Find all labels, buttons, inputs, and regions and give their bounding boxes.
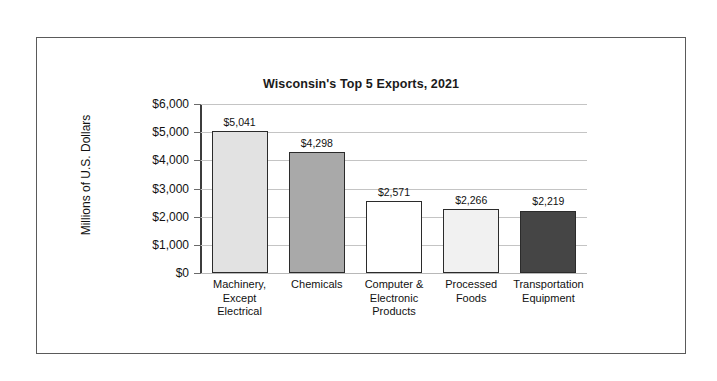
y-axis-tick-label: $1,000 [69,238,189,252]
y-axis-tick [194,217,201,218]
y-axis-tick-label: $5,000 [69,125,189,139]
bar [212,131,268,273]
x-axis-category-label-line: Transportation [502,278,595,292]
y-axis-tick-label: $6,000 [69,97,189,111]
y-axis-tick-label: $4,000 [69,153,189,167]
bar [289,152,345,273]
y-axis-tick [194,245,201,246]
y-axis-tick [194,160,201,161]
bar-value-label: $2,571 [378,186,410,198]
y-axis-tick [194,189,201,190]
y-axis-tick-label: $3,000 [69,182,189,196]
bar [520,211,576,274]
chart-frame: Wisconsin's Top 5 Exports, 2021 Millions… [36,37,686,354]
gridline [201,273,587,274]
y-axis-tick-label: $0 [69,266,189,280]
x-axis-category-label-line: Except [193,292,286,306]
chart-title: Wisconsin's Top 5 Exports, 2021 [37,77,685,91]
y-axis-tick-label: $2,000 [69,210,189,224]
bar [443,209,499,273]
x-axis-category-label: TransportationEquipment [502,278,595,305]
x-axis-category-label-line: Electrical [193,305,286,319]
bar-value-label: $5,041 [224,116,256,128]
x-axis-category-label-line: Products [347,305,440,319]
bar-value-label: $4,298 [301,137,333,149]
y-axis-tick [194,132,201,133]
bar-value-label: $2,266 [455,194,487,206]
y-axis-tick [194,104,201,105]
x-axis-category-label-line: Equipment [502,292,595,306]
gridline [201,104,587,105]
bar [366,201,422,273]
bar-value-label: $2,219 [532,195,564,207]
y-axis-tick [194,273,201,274]
